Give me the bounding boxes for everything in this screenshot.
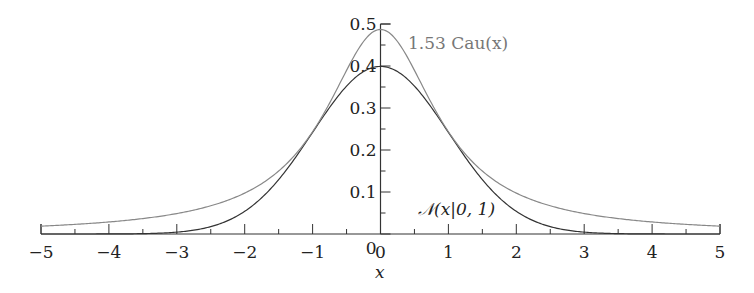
x-tick-label: −4 (96, 242, 121, 262)
y-tick-label: 0.2 (349, 140, 376, 160)
x-axis-label: x (375, 262, 385, 282)
x-tick-label: −2 (232, 242, 257, 262)
x-tick-label: 4 (647, 242, 658, 262)
x-tick-label: 1 (443, 242, 454, 262)
x-tick-label: −5 (28, 242, 53, 262)
y-tick-label: 0.4 (349, 56, 376, 76)
x-tick-label: −1 (300, 242, 325, 262)
y-tick-label: 0.1 (349, 182, 376, 202)
x-tick-label: 0 (375, 242, 386, 262)
x-tick-label: −3 (164, 242, 189, 262)
x-tick-label: 2 (511, 242, 522, 262)
cauchy-label: 1.53 Cau(x) (408, 33, 508, 53)
x-tick-label: 5 (715, 242, 726, 262)
plot-area: −5−4−3−2−101234500.10.20.30.40.5 (0, 0, 754, 293)
x-tick-label: 3 (579, 242, 590, 262)
y-tick-label: 0 (366, 238, 377, 258)
y-tick-label: 0.5 (349, 14, 376, 34)
normal-label: 𝒩(x|0, 1) (418, 199, 495, 219)
y-tick-label: 0.3 (349, 98, 376, 118)
